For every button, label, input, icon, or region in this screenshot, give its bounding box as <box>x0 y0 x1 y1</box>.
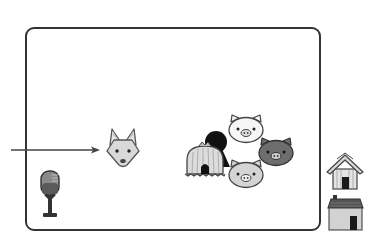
scene-frame <box>25 27 321 231</box>
arrow-right-icon <box>0 140 110 160</box>
pig-light-icon <box>227 159 265 189</box>
straw-hut-icon <box>184 140 226 178</box>
brick-house-icon <box>326 194 364 232</box>
microphone-icon <box>38 169 62 221</box>
fox-head-icon <box>104 127 142 171</box>
wooden-house-icon <box>326 153 364 191</box>
